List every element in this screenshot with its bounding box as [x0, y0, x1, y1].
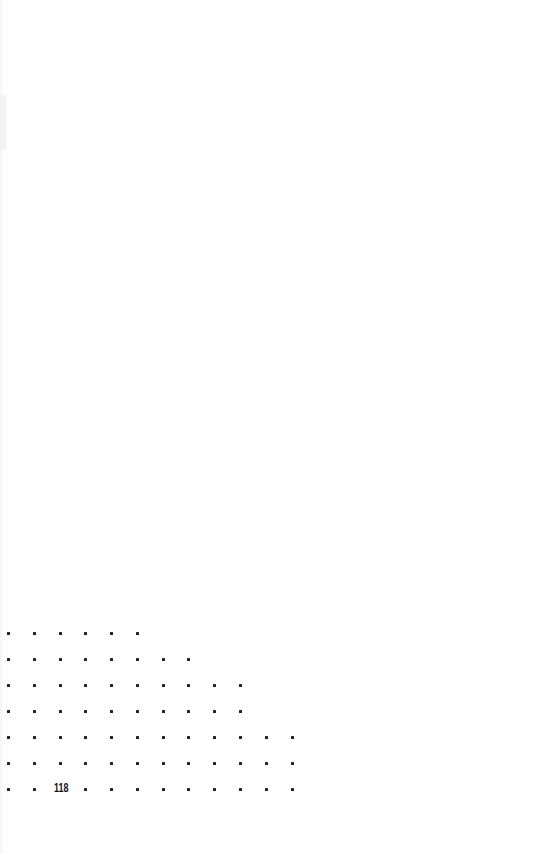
grid-dot	[162, 684, 165, 687]
grid-dot	[162, 736, 165, 739]
grid-dot	[265, 762, 268, 765]
grid-dot	[110, 684, 113, 687]
grid-dot	[33, 658, 36, 661]
grid-dot	[84, 736, 87, 739]
grid-dot	[7, 762, 10, 765]
grid-dot	[136, 658, 139, 661]
grid-dot	[239, 762, 242, 765]
grid-dot	[110, 762, 113, 765]
grid-dot	[187, 762, 190, 765]
grid-dot	[213, 762, 216, 765]
grid-dot	[33, 736, 36, 739]
grid-dot	[84, 684, 87, 687]
grid-dot	[213, 684, 216, 687]
grid-dot	[59, 632, 62, 635]
grid-dot	[291, 788, 294, 791]
grid-dot	[7, 788, 10, 791]
grid-dot	[265, 788, 268, 791]
grid-dot	[291, 762, 294, 765]
grid-dot	[136, 684, 139, 687]
grid-dot	[84, 788, 87, 791]
page-edge-shadow	[0, 95, 6, 150]
grid-dot	[84, 710, 87, 713]
grid-dot	[110, 632, 113, 635]
grid-dot	[187, 658, 190, 661]
grid-dot	[239, 736, 242, 739]
grid-dot	[162, 762, 165, 765]
grid-dot	[7, 632, 10, 635]
grid-dot	[110, 736, 113, 739]
grid-dot	[187, 710, 190, 713]
grid-dot	[33, 684, 36, 687]
grid-dot	[59, 710, 62, 713]
grid-dot	[239, 684, 242, 687]
grid-dot	[136, 736, 139, 739]
grid-dot	[187, 788, 190, 791]
grid-dot	[239, 710, 242, 713]
grid-dot	[7, 736, 10, 739]
grid-dot	[84, 632, 87, 635]
grid-dot	[84, 762, 87, 765]
grid-dot	[110, 710, 113, 713]
grid-dot	[213, 710, 216, 713]
grid-dot	[187, 684, 190, 687]
grid-dot	[110, 658, 113, 661]
grid-dot	[59, 684, 62, 687]
page-number: 118	[54, 781, 69, 795]
grid-dot	[59, 736, 62, 739]
grid-dot	[7, 658, 10, 661]
grid-dot	[7, 684, 10, 687]
grid-dot	[162, 658, 165, 661]
grid-dot	[33, 762, 36, 765]
grid-dot	[136, 762, 139, 765]
grid-dot	[59, 762, 62, 765]
grid-dot	[136, 632, 139, 635]
grid-dot	[110, 788, 113, 791]
grid-dot	[136, 710, 139, 713]
grid-dot	[33, 632, 36, 635]
grid-dot	[7, 710, 10, 713]
grid-dot	[213, 736, 216, 739]
grid-dot	[265, 736, 268, 739]
grid-dot	[187, 736, 190, 739]
grid-dot	[239, 788, 242, 791]
grid-dot	[33, 788, 36, 791]
grid-dot	[59, 658, 62, 661]
document-page: 118	[0, 0, 560, 854]
grid-dot	[162, 710, 165, 713]
grid-dot	[84, 658, 87, 661]
grid-dot	[213, 788, 216, 791]
grid-dot	[136, 788, 139, 791]
grid-dot	[162, 788, 165, 791]
grid-dot	[291, 736, 294, 739]
grid-dot	[33, 710, 36, 713]
